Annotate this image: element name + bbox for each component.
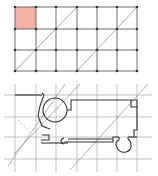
plan-grid-lines (4, 84, 152, 172)
top-grid-diagram (0, 0, 158, 82)
floor-plan-diagram (0, 82, 158, 176)
plan-svg (0, 82, 158, 176)
plan-diagonals (8, 84, 148, 170)
highlighted-cell (15, 7, 36, 29)
plan-walls (15, 93, 137, 152)
faint-dashed-line (18, 120, 30, 132)
grid-svg (0, 0, 158, 82)
